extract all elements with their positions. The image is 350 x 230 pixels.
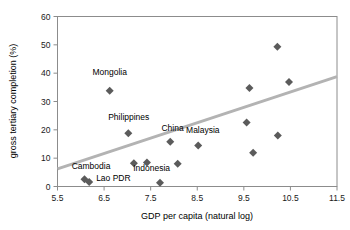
data-point-marker — [156, 179, 164, 187]
data-point-marker — [194, 141, 202, 149]
point-label-text: Lao PDR — [96, 173, 131, 183]
point-label-text: Mongolia — [92, 67, 127, 77]
scatter-chart: 5.56.57.58.59.510.511.5 0102030405060 Mo… — [0, 0, 350, 230]
point-labels: MongoliaPhilippinesChinaMalaysiaIndonesi… — [72, 67, 220, 184]
point-label-text: China — [161, 123, 183, 133]
x-tick-label: 9.5 — [238, 193, 250, 203]
trendline-path — [58, 77, 338, 169]
y-axis-title: gross tertiary completion (%) — [8, 44, 18, 159]
point-label-text: Malaysia — [186, 125, 220, 135]
data-point-marker — [174, 160, 182, 168]
y-tick-label: 0 — [46, 182, 51, 192]
data-point-marker — [249, 149, 257, 157]
y-tick-label: 30 — [41, 97, 51, 107]
x-axis-title: GDP per capita (natural log) — [141, 211, 253, 221]
x-tick-label: 11.5 — [329, 193, 345, 203]
trendline — [58, 77, 338, 169]
x-tick-label: 8.5 — [191, 193, 203, 203]
y-tick-label: 40 — [41, 68, 51, 78]
x-tick-label: 5.5 — [52, 193, 64, 203]
point-label-text: Philippines — [108, 112, 149, 122]
point-label-text: Indonesia — [133, 163, 170, 173]
y-tick-label: 10 — [41, 153, 51, 163]
data-point-marker — [106, 87, 114, 95]
data-point-marker — [273, 43, 281, 51]
x-tick-label: 6.5 — [98, 193, 110, 203]
x-tick-label: 10.5 — [282, 193, 299, 203]
data-point-marker — [274, 132, 282, 140]
chart-canvas: 5.56.57.58.59.510.511.5 0102030405060 Mo… — [0, 0, 350, 230]
y-tick-label: 60 — [41, 12, 51, 22]
data-point-marker — [245, 84, 253, 92]
x-axis-ticks: 5.56.57.58.59.510.511.5 — [52, 187, 346, 203]
y-tick-label: 20 — [41, 125, 51, 135]
x-tick-label: 7.5 — [145, 193, 157, 203]
data-point-marker — [285, 78, 293, 86]
data-point-marker — [124, 129, 132, 137]
y-axis-ticks: 0102030405060 — [41, 12, 57, 192]
point-label-text: Cambodia — [72, 161, 111, 171]
data-point-marker — [166, 138, 174, 146]
y-tick-label: 50 — [41, 40, 51, 50]
data-point-marker — [243, 118, 251, 126]
